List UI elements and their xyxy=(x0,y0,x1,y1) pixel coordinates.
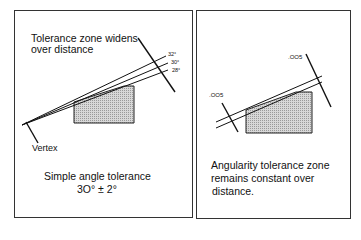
vertex-label: Vertex xyxy=(32,143,58,153)
angle-label-30: 30° xyxy=(171,59,179,65)
tolerance-value-right: .OO5 xyxy=(288,54,302,60)
caption-line-2: remains constant over xyxy=(211,172,314,185)
vertex-leader xyxy=(26,122,38,143)
shaded-part-right xyxy=(246,92,312,133)
shaded-part-left xyxy=(74,86,134,123)
caption-line-2: 3O° ± 2° xyxy=(77,183,117,196)
caption-line-3: distance. xyxy=(212,185,254,198)
angle-label-28: 28° xyxy=(172,67,180,73)
caption-line-1: Angularity tolerance zone xyxy=(211,159,330,172)
tolerance-value-left: .OO5 xyxy=(209,92,223,98)
heading-line-2: over distance xyxy=(31,44,93,55)
tolerance-leader-left xyxy=(222,103,238,132)
caption-line-1: Simple angle tolerance xyxy=(44,170,151,183)
tolerance-zone-leader xyxy=(138,38,175,92)
angle-label-32: 32° xyxy=(168,51,176,57)
